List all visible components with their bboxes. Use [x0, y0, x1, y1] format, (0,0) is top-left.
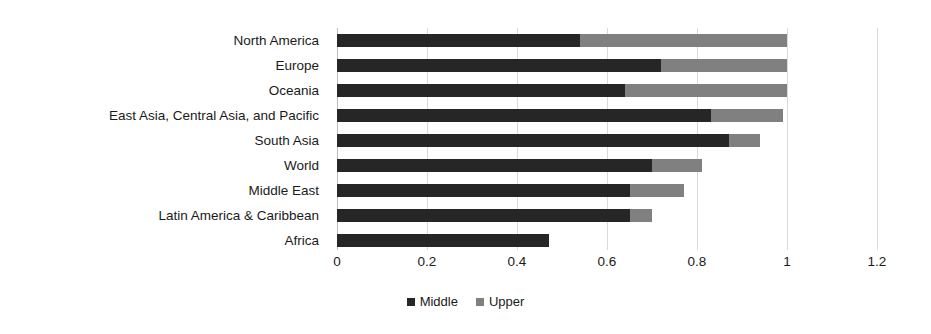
stacked-bar: [337, 84, 787, 97]
bar-row: [337, 228, 877, 253]
bar-segment-middle: [337, 134, 729, 147]
bar-segment-upper: [661, 59, 787, 72]
bar-row: [337, 103, 877, 128]
stacked-bar: [337, 209, 652, 222]
x-tick-label: 0.2: [418, 252, 437, 272]
category-label: North America: [233, 28, 319, 53]
x-tick-label: 0.8: [688, 252, 707, 272]
stacked-bar: [337, 34, 787, 47]
bar-segment-upper: [625, 84, 787, 97]
bar-segment-upper: [630, 184, 684, 197]
plot-area: [337, 28, 877, 250]
bar-segment-middle: [337, 184, 630, 197]
stacked-bar: [337, 134, 760, 147]
bar-row: [337, 53, 877, 78]
x-tick-label: 1.2: [868, 252, 887, 272]
category-label: East Asia, Central Asia, and Pacific: [109, 103, 319, 128]
stacked-bar: [337, 159, 702, 172]
gridline: [877, 28, 878, 250]
bar-segment-middle: [337, 234, 549, 247]
stacked-bar: [337, 184, 684, 197]
bar-segment-middle: [337, 59, 661, 72]
legend-label: Middle: [420, 294, 458, 309]
legend-label: Upper: [489, 294, 524, 309]
category-label: Latin America & Caribbean: [158, 203, 319, 228]
category-label: World: [284, 153, 319, 178]
x-tick-label: 0.4: [508, 252, 527, 272]
legend-swatch-icon: [476, 298, 484, 306]
bar-row: [337, 28, 877, 53]
legend-item[interactable]: Middle: [407, 294, 458, 309]
bar-segment-upper: [652, 159, 702, 172]
bar-segment-upper: [630, 209, 653, 222]
legend-swatch-icon: [407, 298, 415, 306]
bar-segment-middle: [337, 34, 580, 47]
stacked-bar: [337, 234, 549, 247]
bar-segment-upper: [580, 34, 787, 47]
category-label: Europe: [275, 53, 319, 78]
category-axis: North America Europe Oceania East Asia, …: [0, 28, 330, 250]
category-label: Middle East: [248, 178, 319, 203]
bar-segment-middle: [337, 109, 711, 122]
bar-segment-upper: [711, 109, 783, 122]
stacked-bar: [337, 109, 783, 122]
legend-item[interactable]: Upper: [476, 294, 524, 309]
x-tick-label: 0.6: [598, 252, 617, 272]
stacked-bar-chart: North America Europe Oceania East Asia, …: [0, 0, 931, 334]
x-tick-label: 0: [333, 252, 341, 272]
bar-segment-middle: [337, 159, 652, 172]
bar-row: [337, 153, 877, 178]
bar-row: [337, 128, 877, 153]
category-label: Africa: [284, 228, 319, 253]
category-label: South Asia: [254, 128, 319, 153]
legend: MiddleUpper: [0, 294, 931, 309]
x-axis: 00.20.40.60.811.2: [337, 252, 877, 274]
category-label: Oceania: [269, 78, 319, 103]
bar-segment-middle: [337, 84, 625, 97]
bar-segment-middle: [337, 209, 630, 222]
bar-row: [337, 78, 877, 103]
bar-row: [337, 178, 877, 203]
x-tick-label: 1: [783, 252, 791, 272]
bar-segment-upper: [729, 134, 761, 147]
stacked-bar: [337, 59, 787, 72]
bar-row: [337, 203, 877, 228]
